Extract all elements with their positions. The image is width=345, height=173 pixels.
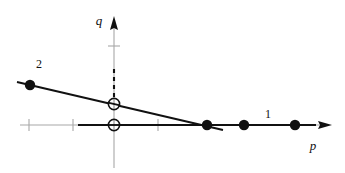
- figure-container: p q 1 2: [0, 0, 345, 173]
- q-axis-label: q: [96, 13, 103, 28]
- line-plot: p q 1 2: [0, 0, 345, 173]
- q-axis-arrowhead: [110, 16, 118, 30]
- p-axis-label: p: [309, 138, 317, 153]
- filled-markers-group: [25, 80, 300, 130]
- q-axis-group: q: [96, 13, 120, 168]
- point-line2-left: [25, 80, 35, 90]
- line-2-label: 2: [36, 57, 42, 71]
- point-line1-a: [202, 120, 212, 130]
- line-1-label: 1: [265, 107, 271, 121]
- p-axis-arrowhead: [318, 121, 332, 129]
- point-line1-b: [239, 120, 249, 130]
- line-2-group: 2: [17, 57, 223, 130]
- point-line1-c: [290, 120, 300, 130]
